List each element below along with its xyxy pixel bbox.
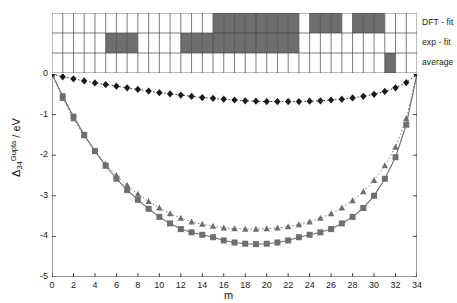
x-axis-ticks: 0246810121416182022242628303234 [0, 0, 457, 303]
figure-root: DFT - fit exp - fit average 0-1-2-3-4-5 … [0, 0, 457, 303]
y-axis-label-sub: 34 [15, 161, 24, 169]
y-axis-label-delta: Δ [10, 170, 22, 177]
y-axis-label: Δ34Gupta / eV [9, 88, 24, 208]
y-axis-label-sup: Gupta [9, 141, 18, 161]
y-axis-label-unit: / eV [10, 118, 22, 138]
x-axis-label: m [0, 289, 457, 301]
